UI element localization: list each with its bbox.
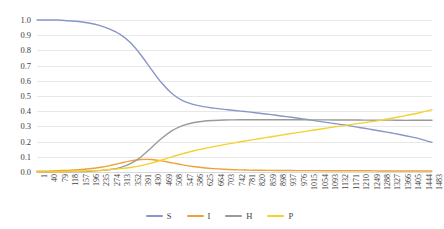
y-axis-tick-label: 0.8 [20,46,31,55]
series-line-i [37,159,432,171]
legend-swatch-icon [146,215,163,217]
chart-legend: SIHP [0,207,439,225]
x-axis-tick-label: 79 [62,174,70,182]
x-axis-tick-label: 1249 [374,174,382,190]
series-line-p [37,110,432,172]
y-axis-tick-label: 0.5 [20,92,31,101]
legend-label: P [288,212,293,221]
y-axis-tick-label: 0.1 [20,153,31,162]
x-axis-tick-label: 196 [93,174,101,186]
y-axis-tick-label: 0.3 [20,122,31,131]
x-axis: 1407911815719623527431335239143046950854… [37,174,432,206]
x-axis-tick-label: 1366 [405,174,413,190]
legend-swatch-icon [187,215,204,217]
y-axis-tick-label: 1.0 [20,16,31,25]
x-axis-tick-label: 40 [51,174,59,182]
x-axis-tick-label: 1210 [363,174,371,190]
y-axis-tick-label: 0.0 [20,168,31,177]
x-axis-tick-label: 1132 [342,174,350,190]
x-axis-tick-label: 820 [259,174,267,186]
y-axis-tick-label: 0.9 [20,31,31,40]
x-axis-tick-label: 859 [270,174,278,186]
x-axis-tick-label: 742 [239,174,247,186]
x-axis-tick-label: 937 [290,174,298,186]
y-axis: 1.00.90.80.70.60.50.40.30.20.10.0 [0,0,35,192]
x-axis-tick-label: 469 [166,174,174,186]
legend-item-h[interactable]: H [225,212,252,221]
x-axis-tick-label: 1483 [436,174,444,190]
x-axis-tick-label: 976 [301,174,309,186]
x-axis-tick-label: 235 [103,174,111,186]
x-axis-tick-label: 1327 [394,174,402,190]
legend-item-p[interactable]: P [267,212,293,221]
x-axis-tick-label: 586 [197,174,205,186]
x-axis-tick-label: 547 [187,174,195,186]
legend-label: S [167,212,172,221]
x-axis-tick-label: 352 [135,174,143,186]
legend-label: H [246,212,252,221]
legend-item-i[interactable]: I [187,212,211,221]
x-axis-tick-label: 1288 [384,174,392,190]
gridline [37,172,432,173]
x-axis-tick-label: 664 [218,174,226,186]
x-axis-tick-label: 313 [124,174,132,186]
x-axis-tick-label: 625 [207,174,215,186]
x-axis-tick-label: 118 [72,174,80,186]
legend-label: I [208,212,211,221]
x-axis-tick-label: 703 [228,174,236,186]
x-axis-tick-label: 1054 [322,174,330,190]
x-axis-tick-label: 898 [280,174,288,186]
legend-item-s[interactable]: S [146,212,172,221]
y-axis-tick-label: 0.7 [20,61,31,70]
x-axis-tick-label: 1405 [415,174,423,190]
x-axis-tick-label: 430 [155,174,163,186]
series-line-s [37,20,432,142]
x-axis-tick-label: 1 [41,174,49,178]
y-axis-tick-label: 0.2 [20,137,31,146]
x-axis-tick-label: 1015 [311,174,319,190]
x-axis-tick-label: 1093 [332,174,340,190]
x-axis-tick-label: 1444 [426,174,434,190]
legend-swatch-icon [225,215,242,217]
x-axis-tick-label: 508 [176,174,184,186]
legend-swatch-icon [267,215,284,217]
plot-area [37,20,432,172]
x-axis-tick-label: 1171 [353,174,361,190]
series-line-h [37,120,432,172]
x-axis-tick-label: 274 [114,174,122,186]
y-axis-tick-label: 0.4 [20,107,31,116]
series-lines [37,20,432,172]
x-axis-tick-label: 781 [249,174,257,186]
y-axis-tick-label: 0.6 [20,77,31,86]
x-axis-tick-label: 391 [145,174,153,186]
x-axis-tick-label: 157 [83,174,91,186]
